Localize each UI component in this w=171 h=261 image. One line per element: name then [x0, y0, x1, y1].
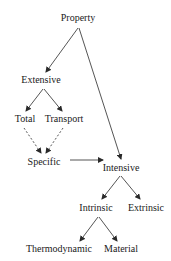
node-material: Material: [104, 244, 138, 254]
edge-intensive-extrinsic: [121, 176, 140, 199]
node-property: Property: [61, 13, 95, 23]
node-intensive: Intensive: [103, 163, 140, 173]
node-extrinsic: Extrinsic: [128, 203, 164, 213]
node-transport: Transport: [45, 114, 84, 124]
edges-layer: [0, 0, 171, 261]
edge-intrinsic-material: [99, 217, 117, 241]
edge-extensive-transport: [44, 89, 62, 111]
edge-property-extensive: [46, 28, 78, 72]
node-specific: Specific: [28, 157, 61, 167]
node-thermodynamic: Thermodynamic: [26, 244, 92, 254]
edge-total-specific: [24, 128, 41, 153]
node-intrinsic: Intrinsic: [79, 203, 112, 213]
edge-intrinsic-thermodynamic: [80, 217, 98, 241]
edge-extensive-total: [26, 89, 43, 111]
diagram-canvas: Property Extensive Total Transport Speci…: [0, 0, 171, 261]
edge-property-intensive: [79, 28, 121, 159]
edge-intensive-intrinsic: [102, 176, 120, 199]
node-total: Total: [15, 114, 35, 124]
edge-transport-specific: [46, 128, 63, 153]
node-extensive: Extensive: [21, 75, 60, 85]
